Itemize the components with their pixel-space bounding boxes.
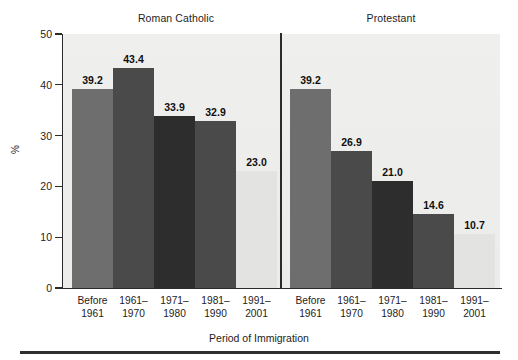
x-axis-label-line: 1961 xyxy=(77,308,107,321)
y-axis-line xyxy=(62,34,63,289)
bar-value-label: 39.2 xyxy=(82,74,102,86)
x-axis-category-label: 1971–1980 xyxy=(378,295,406,320)
bar-value-label: 43.4 xyxy=(123,53,143,65)
x-axis-title: Period of Immigration xyxy=(0,332,518,344)
y-axis-tick xyxy=(55,186,62,187)
y-axis-tick-label: 20 xyxy=(22,180,52,192)
x-axis-category-label: 1971–1980 xyxy=(160,295,188,320)
bar-value-label: 26.9 xyxy=(341,136,361,148)
bar-value-label: 39.2 xyxy=(300,74,320,86)
x-axis-label-line: Before xyxy=(295,295,325,308)
x-axis-label-line: 1961– xyxy=(119,295,147,308)
x-axis-line xyxy=(56,288,502,289)
y-axis-tick xyxy=(55,84,62,85)
x-axis-label-line: 1970 xyxy=(337,308,365,321)
x-axis-label-line: 1961 xyxy=(295,308,325,321)
y-axis-tick xyxy=(55,287,62,288)
bottom-rule xyxy=(20,351,500,354)
x-axis-category-label: 1961–1970 xyxy=(337,295,365,320)
panel-divider-line xyxy=(280,33,282,289)
x-axis-label-line: 1991– xyxy=(242,295,270,308)
y-axis-tick-label: 40 xyxy=(22,79,52,91)
y-axis-tick xyxy=(55,237,62,238)
bar xyxy=(195,121,236,288)
x-axis-label-line: 1971– xyxy=(160,295,188,308)
x-axis-category-label: 1991–2001 xyxy=(242,295,270,320)
x-axis-label-line: 1970 xyxy=(119,308,147,321)
bar-value-label: 33.9 xyxy=(164,101,184,113)
y-axis-title: % xyxy=(10,145,21,154)
x-axis-category-label: 1981–1990 xyxy=(419,295,447,320)
bar-value-label: 10.7 xyxy=(464,219,484,231)
bar xyxy=(290,89,331,288)
y-axis-tick-label: 30 xyxy=(22,130,52,142)
x-axis-label-line: 2001 xyxy=(242,308,270,321)
bar xyxy=(72,89,113,288)
y-axis-tick xyxy=(55,33,62,34)
bar xyxy=(113,68,154,288)
y-axis-tick-label: 10 xyxy=(22,231,52,243)
x-axis-label-line: 1990 xyxy=(419,308,447,321)
x-axis-category-label: Before1961 xyxy=(77,295,107,320)
bar-value-label: 23.0 xyxy=(246,156,266,168)
bar xyxy=(331,151,372,288)
y-axis-tick xyxy=(55,135,62,136)
bar-value-label: 21.0 xyxy=(382,166,402,178)
chart-figure: Roman Catholic Protestant 01020304050 % … xyxy=(0,0,518,360)
x-axis-label-line: 1981– xyxy=(201,295,229,308)
bar-value-label: 32.9 xyxy=(205,106,225,118)
bar xyxy=(154,116,195,288)
bar xyxy=(372,181,413,288)
bar-value-label: 14.6 xyxy=(423,199,443,211)
x-axis-category-label: 1961–1970 xyxy=(119,295,147,320)
x-axis-label-line: 1980 xyxy=(378,308,406,321)
y-axis-tick-label: 50 xyxy=(22,28,52,40)
x-axis-label-line: 1981– xyxy=(419,295,447,308)
panel-title-protestant: Protestant xyxy=(282,12,500,24)
x-axis-label-line: 1990 xyxy=(201,308,229,321)
x-axis-label-line: 1980 xyxy=(160,308,188,321)
bar xyxy=(413,214,454,288)
bar xyxy=(454,234,495,288)
x-axis-label-line: 2001 xyxy=(460,308,488,321)
bar xyxy=(236,171,277,288)
x-axis-label-line: 1991– xyxy=(460,295,488,308)
x-axis-category-label: Before1961 xyxy=(295,295,325,320)
y-axis-tick-label: 0 xyxy=(22,282,52,294)
x-axis-label-line: 1971– xyxy=(378,295,406,308)
panel-title-roman-catholic: Roman Catholic xyxy=(72,12,280,24)
x-axis-label-line: 1961– xyxy=(337,295,365,308)
x-axis-category-label: 1981–1990 xyxy=(201,295,229,320)
x-axis-label-line: Before xyxy=(77,295,107,308)
x-axis-category-label: 1991–2001 xyxy=(460,295,488,320)
